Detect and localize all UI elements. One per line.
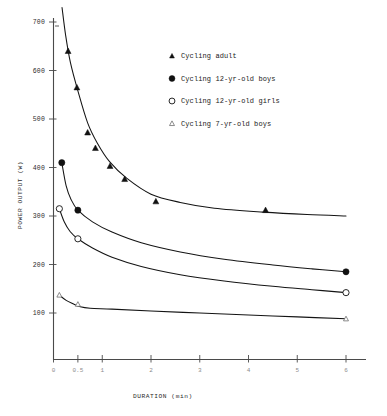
x-tick-label: 2 bbox=[149, 367, 153, 374]
marker-filled-circle bbox=[169, 76, 175, 82]
x-axis-title: DURATION (min) bbox=[133, 393, 193, 400]
legend-entry-3: Cycling 7-yr-old boys bbox=[170, 120, 272, 128]
y-tick-label: 700 bbox=[33, 19, 45, 26]
x-tick-label: 5 bbox=[295, 367, 299, 374]
power-output-duration-chart: 100200300400500600700 00.5123456 Cycling… bbox=[0, 0, 387, 416]
marker-open-circle bbox=[169, 98, 175, 104]
marker-filled-circle bbox=[59, 160, 65, 166]
x-tick-label: 0 bbox=[52, 367, 56, 374]
legend-label: Cycling adult bbox=[181, 52, 237, 60]
y-axis-title: POWER OUTPUT (W) bbox=[17, 161, 24, 229]
marker-open-circle bbox=[343, 290, 349, 296]
y-tick-label: 200 bbox=[33, 262, 45, 269]
y-tick-label: 600 bbox=[33, 68, 45, 75]
legend-label: Cycling 12-yr-old girls bbox=[181, 97, 280, 105]
legend-entry-1: Cycling 12-yr-old boys bbox=[169, 75, 276, 83]
x-tick-label: 4 bbox=[247, 367, 251, 374]
marker-filled-circle bbox=[343, 269, 349, 275]
x-tick-label: 1 bbox=[100, 367, 104, 374]
y-tick-label: 300 bbox=[33, 213, 45, 220]
x-tick-label: 3 bbox=[198, 367, 202, 374]
marker-open-circle bbox=[75, 236, 81, 242]
x-tick-label: 0.5 bbox=[72, 367, 83, 374]
x-tick-label: 6 bbox=[344, 367, 348, 374]
marker-filled-circle bbox=[75, 207, 81, 213]
y-tick-label: 100 bbox=[33, 310, 45, 317]
y-tick-label: 400 bbox=[33, 165, 45, 172]
legend-label: Cycling 7-yr-old boys bbox=[181, 120, 271, 128]
legend-label: Cycling 12-yr-old boys bbox=[181, 75, 276, 83]
y-tick-label: 500 bbox=[33, 116, 45, 123]
legend-entry-2: Cycling 12-yr-old girls bbox=[169, 97, 280, 105]
marker-open-circle bbox=[56, 206, 62, 212]
